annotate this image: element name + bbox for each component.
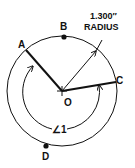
radius-label-value: 1.300″ (90, 11, 118, 21)
label-c: C (116, 75, 123, 86)
point-b-dot (61, 34, 66, 39)
circle-diagram: A B C D O 1.300″ RADIUS ∠1 (0, 0, 135, 168)
radius-leader (96, 40, 102, 51)
radius-label-text: RADIUS (84, 22, 119, 32)
angle-1-arc-right (67, 85, 100, 129)
angle-1-label: ∠1 (52, 124, 67, 135)
label-a: A (18, 39, 25, 50)
point-d-dot (43, 143, 48, 148)
radius-dimension-line (62, 51, 96, 91)
radius-oc (62, 82, 116, 91)
label-b: B (60, 21, 67, 32)
label-o: O (64, 97, 72, 108)
label-d: D (42, 151, 49, 162)
radius-oa (26, 50, 62, 91)
